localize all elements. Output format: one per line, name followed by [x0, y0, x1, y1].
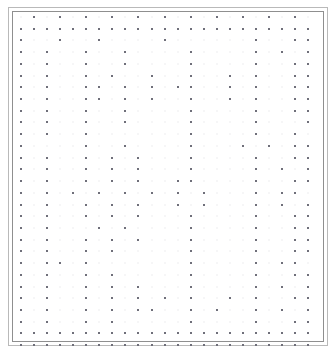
grid-dot: [46, 204, 48, 206]
grid-dot-ghost: [203, 39, 205, 41]
grid-dot-ghost: [137, 86, 139, 88]
grid-dot-ghost: [177, 297, 179, 299]
grid-dot-ghost: [98, 274, 100, 276]
grid-dot: [255, 157, 257, 159]
grid-dot-ghost: [177, 51, 179, 53]
grid-dot-ghost: [229, 121, 231, 123]
grid-dot: [164, 332, 166, 334]
grid-dot-ghost: [164, 192, 166, 194]
grid-dot-ghost: [137, 98, 139, 100]
grid-dot: [33, 16, 35, 18]
grid-dot: [98, 192, 100, 194]
grid-dot: [137, 168, 139, 170]
grid-dot: [72, 28, 74, 30]
grid-dot: [216, 309, 218, 311]
grid-dot: [307, 28, 309, 30]
grid-dot-ghost: [98, 321, 100, 323]
grid-dot-ghost: [59, 75, 61, 77]
grid-dot: [46, 157, 48, 159]
grid-dot-ghost: [59, 110, 61, 112]
grid-dot: [190, 75, 192, 77]
grid-dot: [294, 110, 296, 112]
grid-dot: [229, 75, 231, 77]
grid-dot: [294, 145, 296, 147]
grid-dot: [85, 51, 87, 53]
grid-dot: [307, 86, 309, 88]
grid-dot: [85, 332, 87, 334]
grid-dot-ghost: [216, 39, 218, 41]
grid-dot-ghost: [72, 297, 74, 299]
grid-dot-ghost: [177, 157, 179, 159]
grid-dot-ghost: [33, 157, 35, 159]
grid-dot-ghost: [33, 227, 35, 229]
grid-dot-ghost: [164, 215, 166, 217]
grid-dot-ghost: [294, 121, 296, 123]
grid-dot-ghost: [98, 180, 100, 182]
grid-dot: [20, 321, 22, 323]
grid-dot: [98, 344, 100, 346]
grid-dot: [242, 145, 244, 147]
grid-dot: [281, 344, 283, 346]
grid-dot: [46, 286, 48, 288]
grid-dot-ghost: [268, 51, 270, 53]
grid-dot: [151, 28, 153, 30]
grid-dot-ghost: [151, 51, 153, 53]
grid-dot-ghost: [98, 168, 100, 170]
grid-dot-ghost: [203, 110, 205, 112]
grid-dot: [268, 145, 270, 147]
grid-dot-ghost: [203, 133, 205, 135]
grid-dot-ghost: [307, 16, 309, 18]
grid-dot: [124, 332, 126, 334]
grid-dot: [85, 262, 87, 264]
grid-dot: [242, 344, 244, 346]
grid-dot-ghost: [59, 215, 61, 217]
grid-dot-ghost: [229, 250, 231, 252]
grid-dot: [255, 168, 257, 170]
grid-dot: [242, 28, 244, 30]
grid-dot-ghost: [177, 121, 179, 123]
grid-dot: [111, 215, 113, 217]
grid-dot-ghost: [242, 309, 244, 311]
grid-dot-ghost: [294, 204, 296, 206]
grid-dot-ghost: [151, 239, 153, 241]
grid-dot-ghost: [59, 180, 61, 182]
grid-dot-ghost: [216, 180, 218, 182]
grid-dot-ghost: [33, 98, 35, 100]
grid-dot: [255, 86, 257, 88]
grid-dot-ghost: [124, 75, 126, 77]
grid-dot-ghost: [164, 262, 166, 264]
grid-dot: [137, 309, 139, 311]
grid-dot-ghost: [98, 297, 100, 299]
grid-dot-ghost: [177, 274, 179, 276]
grid-dot-ghost: [216, 192, 218, 194]
grid-dot-ghost: [216, 321, 218, 323]
grid-dot-ghost: [203, 274, 205, 276]
grid-dot: [190, 16, 192, 18]
grid-dot-ghost: [151, 168, 153, 170]
grid-dot-ghost: [111, 63, 113, 65]
grid-dot: [281, 309, 283, 311]
grid-dot: [190, 250, 192, 252]
grid-dot-ghost: [72, 121, 74, 123]
grid-dot-ghost: [72, 16, 74, 18]
grid-dot-ghost: [203, 157, 205, 159]
grid-dot-ghost: [137, 133, 139, 135]
grid-dot-ghost: [59, 204, 61, 206]
grid-dot: [229, 297, 231, 299]
grid-dot-ghost: [216, 286, 218, 288]
grid-dot: [203, 344, 205, 346]
grid-dot: [255, 332, 257, 334]
grid-dot-ghost: [242, 98, 244, 100]
grid-dot: [268, 344, 270, 346]
grid-dot-ghost: [268, 215, 270, 217]
grid-dot: [111, 16, 113, 18]
grid-dot: [85, 204, 87, 206]
grid-dot-ghost: [124, 309, 126, 311]
grid-dot-ghost: [242, 274, 244, 276]
grid-dot: [307, 145, 309, 147]
grid-dot: [20, 192, 22, 194]
grid-dot-ghost: [216, 86, 218, 88]
grid-dot-ghost: [281, 86, 283, 88]
grid-dot: [190, 344, 192, 346]
grid-dot-ghost: [98, 121, 100, 123]
